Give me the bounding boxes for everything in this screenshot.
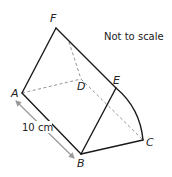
vertex-label-C: C [146, 136, 154, 149]
vertex-label-D: D [77, 80, 85, 93]
edge-BC [81, 140, 143, 154]
not-to-scale-note: Not to scale [104, 31, 164, 42]
prism-diagram: 10 cm F A D E B C Not to scale [0, 0, 172, 177]
vertex-label-F: F [50, 12, 57, 25]
edge-AF [22, 28, 56, 93]
vertex-label-B: B [77, 157, 85, 170]
arc-EC [116, 88, 143, 140]
vertex-label-E: E [113, 74, 120, 87]
edge-AD [22, 79, 81, 93]
vertex-label-A: A [10, 87, 19, 100]
dimension-label: 10 cm [22, 122, 53, 133]
edge-BE [81, 88, 116, 154]
